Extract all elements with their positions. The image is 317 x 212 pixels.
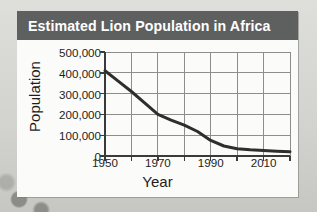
grid-lines	[105, 52, 290, 156]
x-axis-tick-labels: 1950 1970 1990 2010	[17, 156, 298, 174]
page-title: Estimated Lion Population in Africa	[17, 18, 271, 34]
x-tick-label: 2010	[251, 156, 277, 169]
axis-lines	[105, 52, 290, 156]
population-line-series	[105, 71, 290, 152]
x-tick-label: 1950	[92, 156, 118, 169]
chart-title-bar: Estimated Lion Population in Africa	[17, 11, 298, 40]
x-tick-label: 1970	[145, 156, 171, 169]
x-axis-label: Year	[17, 173, 298, 190]
chart-card: Estimated Lion Population in Africa Popu…	[17, 11, 298, 197]
x-tick-label: 1990	[198, 156, 224, 169]
chart-plot-area: Population 500,000 400,000 300,000 200,0…	[17, 40, 298, 197]
